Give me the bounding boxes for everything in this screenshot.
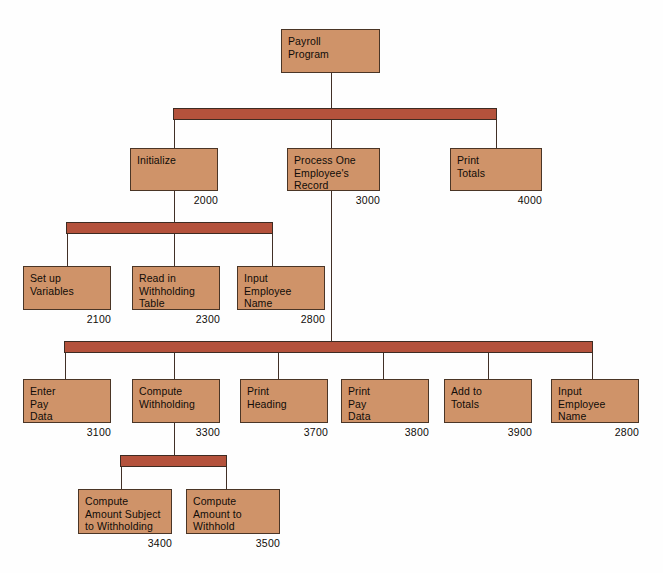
module-number-print-totals: 4000 [482,194,542,206]
line-bar3-to-setup [67,234,68,266]
line-bar4-to-print-pay-data [383,353,384,379]
module-box-add-to-totals[interactable]: Add to Totals [444,379,532,423]
module-box-payroll-program[interactable]: Payroll Program [281,29,380,73]
module-number-input-employee-name-2800a: 2800 [265,313,325,325]
module-box-set-up-variables[interactable]: Set up Variables [23,266,111,310]
bar-level-4 [64,341,593,353]
line-root-down [331,73,332,108]
module-number-read-in-withholding-table: 2300 [160,313,220,325]
module-box-read-in-withholding-table[interactable]: Read in Withholding Table [132,266,220,310]
module-box-input-employee-name-2800a[interactable]: Input Employee Name [237,266,325,310]
module-box-compute-amount-subject-to-withholding[interactable]: Compute Amount Subject to Withholding [78,489,172,534]
line-bar5-to-amount-withhold [226,467,227,489]
module-box-print-heading[interactable]: Print Heading [240,379,328,423]
module-number-print-pay-data: 3800 [369,426,429,438]
line-bar2-to-process [331,120,332,148]
module-box-print-totals[interactable]: Print Totals [450,148,542,191]
module-box-initialize[interactable]: Initialize [130,148,218,191]
structure-chart-canvas: Payroll ProgramInitialize2000Process One… [0,0,663,573]
module-box-input-employee-name-2800b[interactable]: Input Employee Name [551,379,639,423]
bar-level-5 [120,455,227,467]
module-number-compute-amount-to-withhold: 3500 [220,537,280,549]
module-number-enter-pay-data: 3100 [51,426,111,438]
line-bar4-to-add-to-totals [488,353,489,379]
module-number-input-employee-name-2800b: 2800 [579,426,639,438]
module-number-process-one-employees-record: 3000 [320,194,380,206]
line-bar4-to-input-name-2 [592,353,593,379]
line-process-down-long [331,191,332,341]
module-number-add-to-totals: 3900 [472,426,532,438]
bar-level-3 [66,222,273,234]
module-number-print-heading: 3700 [268,426,328,438]
line-bar3-to-input-name [272,234,273,266]
module-box-compute-withholding[interactable]: Compute Withholding [132,379,220,423]
line-bar2-to-print-totals [496,120,497,148]
module-box-enter-pay-data[interactable]: Enter Pay Data [23,379,111,423]
line-bar3-to-readin [174,234,175,266]
module-number-compute-withholding: 3300 [160,426,220,438]
module-box-process-one-employees-record[interactable]: Process One Employee's Record [287,148,380,191]
line-bar4-to-enter-pay [65,353,66,379]
module-number-compute-amount-subject-to-withholding: 3400 [112,537,172,549]
line-bar2-to-initialize [174,120,175,148]
module-box-print-pay-data[interactable]: Print Pay Data [341,379,429,423]
module-number-initialize: 2000 [158,194,218,206]
module-number-set-up-variables: 2100 [51,313,111,325]
module-box-compute-amount-to-withhold[interactable]: Compute Amount to Withhold [186,489,280,534]
bar-level-2 [173,108,497,120]
line-bar5-to-amount-subject [121,467,122,489]
line-bar4-to-compute-withholding [174,353,175,379]
line-bar4-to-print-heading [278,353,279,379]
